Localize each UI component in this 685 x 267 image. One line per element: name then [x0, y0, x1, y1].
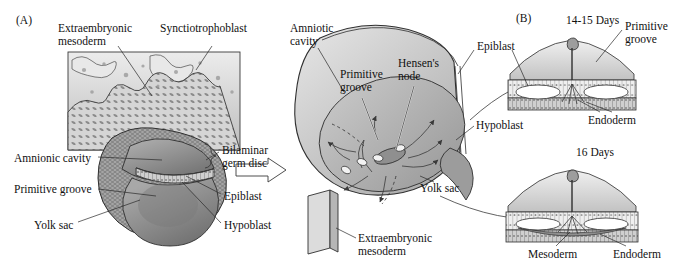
label-hypoblast-a: Hypoblast — [224, 219, 271, 232]
label-hypoblast-mid: Hypoblast — [476, 119, 523, 132]
label-synctiotrophoblast: Synctiotrophoblast — [160, 22, 247, 35]
panel-mid-artwork — [295, 25, 479, 254]
label-primitive-groove-a: Primitive groove — [14, 183, 92, 196]
label-epiblast-mid: Epiblast — [477, 40, 515, 53]
label-yolk-sac-mid: Yolk sac — [420, 182, 459, 195]
label-mesoderm: Mesoderm — [528, 248, 577, 261]
label-extraembryonic-mesoderm-a: Extraembryonic mesoderm — [58, 22, 132, 47]
panel-a-id: (A) — [16, 14, 32, 26]
section-14-15-days — [508, 38, 636, 110]
panel-a-artwork — [68, 52, 240, 246]
label-amniotic-cavity: Amniotic cavity — [290, 22, 333, 47]
panel-b-id: (B) — [516, 12, 531, 24]
title-16-days: 16 Days — [576, 146, 614, 159]
label-extraembryonic-mesoderm-mid: Extraembryonic mesoderm — [358, 232, 432, 257]
section-16-days — [506, 170, 638, 242]
label-endoderm-top: Endoderm — [588, 114, 636, 127]
label-hensens-node: Hensen's node — [398, 57, 439, 82]
title-14-15-days: 14-15 Days — [566, 14, 619, 27]
label-bilaminar-germ-disc: Bilaminar germ disc — [222, 144, 268, 169]
label-endoderm-bottom: Endoderm — [613, 248, 661, 261]
label-primitive-groove-b: Primitive groove — [625, 20, 668, 45]
panel-b-artwork — [506, 30, 638, 246]
label-yolk-sac-a: Yolk sac — [34, 219, 73, 232]
figure-gastrulation: (A) (B) Extraembryonic mesoderm Synctiot… — [0, 0, 685, 267]
label-epiblast-a: Epiblast — [224, 190, 262, 203]
label-primitive-groove-mid: Primitive groove — [340, 68, 383, 93]
label-amnionic-cavity: Amnionic cavity — [14, 152, 91, 165]
